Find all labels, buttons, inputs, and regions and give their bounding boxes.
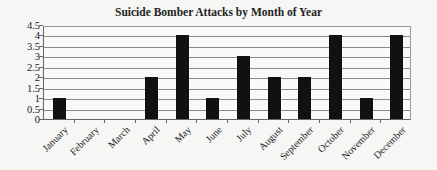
y-tick-mark (39, 119, 43, 120)
y-tick-label: 0 (35, 115, 40, 125)
gridline (44, 68, 410, 69)
x-tick-label: January (40, 124, 70, 154)
y-tick-label: 4.5 (27, 21, 40, 31)
x-tick-mark (135, 120, 136, 123)
y-tick-label: 2.5 (27, 63, 40, 73)
x-tick-mark (258, 120, 259, 123)
y-tick-mark (39, 67, 43, 68)
x-tick-label: June (203, 124, 224, 145)
y-tick-mark (39, 25, 43, 26)
y-tick-label: 0.5 (27, 105, 40, 115)
bar-june (206, 98, 219, 119)
x-tick-label: February (68, 124, 101, 157)
y-tick-label: 3 (35, 52, 40, 62)
bar-september (298, 77, 311, 119)
gridline (44, 78, 410, 79)
gridline (44, 89, 410, 90)
bar-may (176, 35, 189, 119)
bar-april (145, 77, 158, 119)
x-tick-mark (166, 120, 167, 123)
x-tick-label: March (105, 124, 131, 150)
bar-august (268, 77, 281, 119)
gridline (44, 110, 410, 111)
bar-november (360, 98, 373, 119)
x-tick-mark (288, 120, 289, 123)
bar-october (329, 35, 342, 119)
bar-july (237, 56, 250, 119)
x-tick-mark (319, 120, 320, 123)
y-tick-mark (39, 88, 43, 89)
y-tick-mark (39, 46, 43, 47)
x-tick-label: August (256, 124, 284, 152)
bar-december (390, 35, 403, 119)
gridline (44, 47, 410, 48)
x-tick-label: December (371, 124, 408, 161)
x-tick-mark (227, 120, 228, 123)
y-tick-label: 2 (35, 73, 40, 83)
y-tick-label: 4 (35, 31, 40, 41)
x-tick-label: November (339, 124, 377, 162)
y-tick-label: 3.5 (27, 42, 40, 52)
x-tick-label: July (234, 124, 254, 144)
x-tick-mark (350, 120, 351, 123)
x-tick-mark (74, 120, 75, 123)
x-tick-mark (104, 120, 105, 123)
x-tick-label: May (172, 124, 193, 145)
gridline (44, 36, 410, 37)
y-tick-mark (39, 109, 43, 110)
y-tick-mark (39, 56, 43, 57)
x-tick-mark (196, 120, 197, 123)
plot-area (43, 26, 411, 120)
gridline (44, 57, 410, 58)
y-tick-mark (39, 35, 43, 36)
y-tick-mark (39, 98, 43, 99)
x-tick-label: April (140, 124, 163, 147)
x-tick-mark (380, 120, 381, 123)
bar-january (53, 98, 66, 119)
y-tick-mark (39, 77, 43, 78)
y-tick-label: 1.5 (27, 84, 40, 94)
chart-title: Suicide Bomber Attacks by Month of Year (0, 6, 437, 18)
y-tick-label: 1 (35, 94, 40, 104)
gridline (44, 99, 410, 100)
